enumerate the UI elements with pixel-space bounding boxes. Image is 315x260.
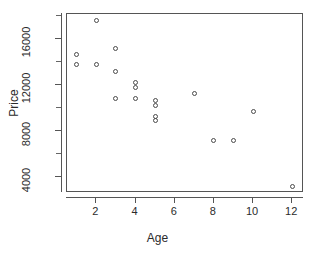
y-axis-line bbox=[61, 13, 62, 192]
data-point bbox=[133, 96, 138, 101]
x-axis-tick bbox=[291, 197, 292, 203]
x-axis-tick-label: 8 bbox=[210, 205, 216, 217]
data-point bbox=[290, 184, 295, 189]
data-point bbox=[94, 62, 99, 67]
data-point bbox=[231, 138, 236, 143]
data-point bbox=[94, 18, 99, 23]
y-axis-tick-label: 8000 bbox=[0, 124, 52, 136]
x-axis-tick bbox=[252, 197, 253, 203]
y-axis-tick-label: 16000 bbox=[0, 32, 52, 44]
x-axis-tick-label: 12 bbox=[285, 205, 297, 217]
data-point-layer bbox=[67, 14, 302, 191]
x-axis-tick-label: 4 bbox=[131, 205, 137, 217]
x-axis-line bbox=[66, 197, 303, 198]
x-axis-tick-label: 10 bbox=[246, 205, 258, 217]
y-axis-tick bbox=[55, 84, 61, 85]
plot-area-frame bbox=[66, 13, 303, 192]
data-point bbox=[192, 91, 197, 96]
x-axis-tick-label: 2 bbox=[92, 205, 98, 217]
data-point bbox=[113, 46, 118, 51]
data-point bbox=[133, 85, 138, 90]
y-axis-tick bbox=[55, 38, 61, 39]
data-point bbox=[113, 69, 118, 74]
x-axis-tick-label: 6 bbox=[171, 205, 177, 217]
x-axis-tick bbox=[95, 197, 96, 203]
data-point bbox=[153, 118, 158, 123]
data-point bbox=[153, 103, 158, 108]
y-axis-tick-label: 4000 bbox=[0, 170, 52, 182]
x-axis-tick bbox=[174, 197, 175, 203]
y-axis-minor-tick bbox=[56, 15, 61, 16]
x-axis-tick bbox=[135, 197, 136, 203]
x-axis-title: Age bbox=[0, 231, 315, 245]
y-axis-minor-tick bbox=[56, 107, 61, 108]
data-point bbox=[74, 52, 79, 57]
y-axis-tick-label: 12000 bbox=[0, 78, 52, 90]
x-axis-title-text: Age bbox=[147, 231, 168, 245]
data-point bbox=[211, 138, 216, 143]
scatter-plot-figure: Price 400080001200016000 24681012 Age bbox=[0, 0, 315, 260]
data-point bbox=[251, 109, 256, 114]
y-axis-tick bbox=[55, 130, 61, 131]
x-axis-tick bbox=[213, 197, 214, 203]
y-axis-title-text: Price bbox=[7, 89, 21, 116]
data-point bbox=[74, 62, 79, 67]
data-point bbox=[113, 96, 118, 101]
y-axis-minor-tick bbox=[56, 153, 61, 154]
data-point bbox=[153, 98, 158, 103]
y-axis-tick bbox=[55, 176, 61, 177]
y-axis-minor-tick bbox=[56, 61, 61, 62]
